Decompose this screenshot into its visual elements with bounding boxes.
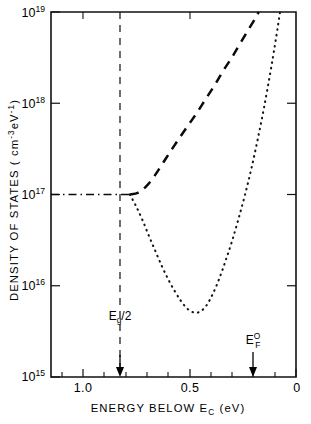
fermi-level-label: EOF [246,331,261,350]
x-axis-title: ENERGY BELOW EC (eV) [91,402,246,417]
x-tick-labels: 1.0 0.5 0 [74,381,301,395]
y-tick-label-1e19: 1019 [22,4,46,20]
x-axis-ticks [62,12,296,377]
y-tick-label-1e15: 1015 [22,368,46,384]
chart-figure: 1019 1018 1017 1016 1015 1.0 0.5 0 ENERG… [0,0,311,424]
annotation-fermi-level: EOF [246,331,261,377]
y-axis-title: DENSITY OF STATES ( cm-3eV-1) [7,99,20,301]
series-dotted-curve [130,12,280,313]
chart-curves [51,12,280,313]
x-tick-label-1p0: 1.0 [74,381,92,395]
y-tick-label-1e18: 1018 [22,95,46,111]
y-tick-label-1e17: 1017 [22,186,46,202]
x-tick-label-0p5: 0.5 [181,381,199,395]
series-dashed-curve [130,12,259,195]
y-tick-labels: 1019 1018 1017 1016 1015 [22,4,46,384]
chart-svg: 1019 1018 1017 1016 1015 1.0 0.5 0 ENERG… [0,0,311,424]
y-tick-label-1e16: 1016 [22,277,46,293]
fermi-arrow-head [249,367,257,377]
x-tick-label-0: 0 [293,381,300,395]
eg-half-arrow-head [116,367,124,377]
